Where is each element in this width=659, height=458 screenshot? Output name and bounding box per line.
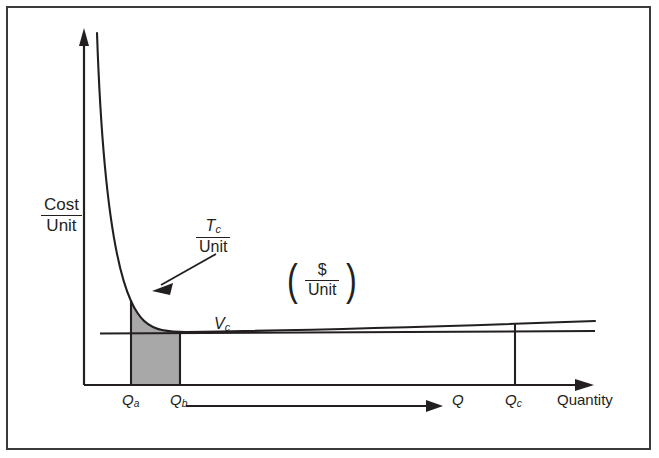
tc-numerator: Tc — [196, 218, 230, 238]
cost-unit-denominator: Unit — [41, 216, 82, 235]
cost-unit-fraction: Cost Unit — [41, 196, 82, 235]
chart-canvas — [0, 0, 659, 458]
right-paren: ) — [347, 262, 358, 299]
x-tick-label-qa: Qa — [122, 392, 139, 410]
tc-denominator: Unit — [196, 238, 230, 256]
figure-container: Cost Unit Tc Unit ( $ Unit ) Vc Qa Qb Q … — [0, 0, 659, 458]
total-cost-curve-label: Tc Unit — [196, 218, 230, 256]
y-axis-label: Cost Unit — [41, 196, 82, 235]
y-axis-arrow-icon — [79, 28, 89, 46]
variable-cost-label: Vc — [214, 316, 230, 334]
x-axis-label: Quantity — [557, 392, 613, 408]
tc-unit-fraction: Tc Unit — [196, 218, 230, 256]
tc-annotation-arrow-line — [161, 254, 216, 285]
dollar-unit-fraction: $ Unit — [305, 262, 339, 299]
quantity-direction-label: Q — [452, 392, 464, 408]
dollar-numerator: $ — [305, 262, 339, 281]
x-tick-label-qc: Qc — [505, 392, 522, 410]
left-paren: ( — [287, 262, 298, 299]
cost-unit-numerator: Cost — [41, 196, 82, 216]
x-axis-arrow-icon — [575, 379, 594, 391]
unit-denominator: Unit — [305, 281, 339, 299]
units-note-label: ( $ Unit ) — [285, 262, 359, 299]
x-tick-label-qb: Qb — [170, 392, 187, 410]
quantity-direction-arrow-icon — [426, 400, 443, 412]
